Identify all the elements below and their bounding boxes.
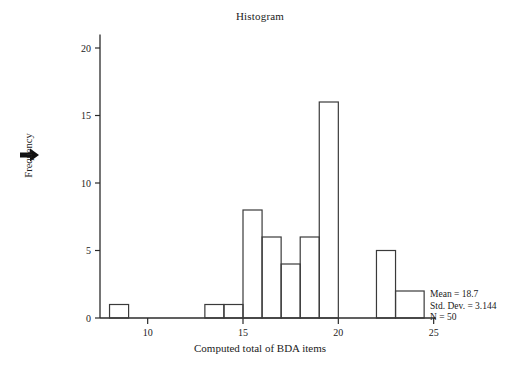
histogram-bar — [224, 305, 243, 319]
histogram-bar — [396, 291, 425, 318]
histogram-figure: Histogram Frequency Computed total of BD… — [0, 0, 520, 377]
histogram-bar — [300, 237, 319, 318]
stat-mean: Mean = 18.7 — [430, 289, 520, 301]
y-tick-label: 15 — [81, 110, 91, 121]
x-tick-label: 15 — [238, 327, 248, 338]
x-tick-label: 25 — [429, 327, 439, 338]
histogram-bar — [319, 102, 338, 318]
x-tick-label: 10 — [143, 327, 153, 338]
histogram-bar — [205, 305, 224, 319]
histogram-bar — [281, 264, 300, 318]
y-tick-label: 0 — [86, 313, 91, 324]
stat-std-dev: Std. Dev. = 3.144 — [430, 301, 520, 313]
y-tick-label: 5 — [86, 245, 91, 256]
stat-n: N = 50 — [430, 312, 520, 324]
stats-annotation: Mean = 18.7 Std. Dev. = 3.144 N = 50 — [430, 289, 520, 324]
x-tick-label: 20 — [333, 327, 343, 338]
histogram-bar — [243, 210, 262, 318]
histogram-bar — [262, 237, 281, 318]
y-tick-label: 10 — [81, 178, 91, 189]
y-tick-label: 20 — [81, 43, 91, 54]
histogram-bar — [110, 305, 129, 319]
histogram-bar — [376, 251, 395, 319]
